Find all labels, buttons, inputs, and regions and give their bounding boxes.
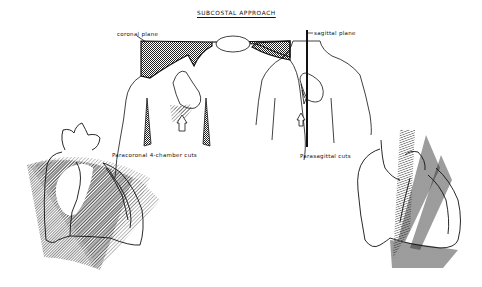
label-sagittal-plane: sagittal plane [314,30,356,36]
heart-parasagittal [358,130,461,268]
label-parasagittal-cuts: Parasagittal cuts [300,153,351,159]
diagram-artwork [0,0,482,287]
figure-title: SUBCOSTAL APPROACH [197,10,276,16]
heart-paracoronal [27,123,160,270]
label-paracoronal-cuts: Paracoronal 4-chamber cuts [112,152,197,158]
label-coronal-plane: coronal plane [117,31,158,37]
subcostal-approach-figure: SUBCOSTAL APPROACH coronal plane sagitta… [0,0,482,287]
